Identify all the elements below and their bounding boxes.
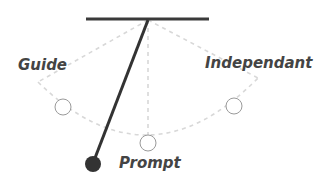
swing-guides	[38, 20, 258, 135]
pendulum-bob	[85, 156, 101, 172]
position-circle-independant	[226, 98, 242, 114]
pendulum-rod	[95, 20, 148, 158]
label-prompt: Prompt	[119, 156, 181, 171]
label-independant: Independant	[205, 56, 312, 71]
position-circle-prompt	[140, 135, 156, 151]
label-guide: Guide	[18, 58, 67, 73]
position-circle-guide	[55, 99, 71, 115]
